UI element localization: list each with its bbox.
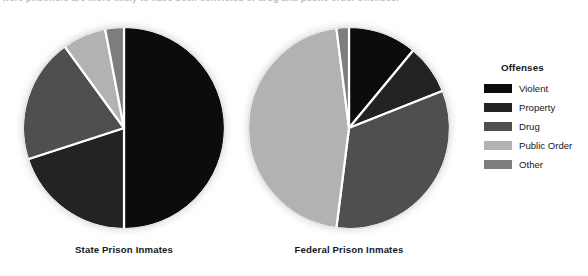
legend-swatch-public-order bbox=[484, 141, 512, 150]
legend-label-property: Property bbox=[519, 103, 555, 113]
state-prison-pie-chart: State Prison Inmates bbox=[18, 22, 230, 255]
legend-label-other: Other bbox=[519, 160, 543, 170]
legend-item-public-order: Public Order bbox=[484, 136, 584, 155]
state-pie-caption: State Prison Inmates bbox=[18, 244, 230, 255]
legend-label-violent: Violent bbox=[519, 84, 548, 94]
legend-item-violent: Violent bbox=[484, 79, 584, 98]
state-pie-svg bbox=[18, 22, 230, 234]
federal-prison-pie-chart: Federal Prison Inmates bbox=[243, 22, 455, 255]
legend-item-property: Property bbox=[484, 98, 584, 117]
legend-item-other: Other bbox=[484, 155, 584, 174]
legend-label-drug: Drug bbox=[519, 122, 540, 132]
federal-pie-svg bbox=[243, 22, 455, 234]
legend-title: Offenses bbox=[501, 62, 584, 73]
pie-slice bbox=[124, 27, 225, 229]
legend-swatch-drug bbox=[484, 122, 512, 131]
federal-pie-caption: Federal Prison Inmates bbox=[243, 244, 455, 255]
federal-pie-canvas bbox=[243, 22, 455, 234]
legend-swatch-other bbox=[484, 160, 512, 169]
state-pie-canvas bbox=[18, 22, 230, 234]
legend-swatch-violent bbox=[484, 84, 512, 93]
legend-item-drug: Drug bbox=[484, 117, 584, 136]
pie-slice bbox=[248, 28, 349, 228]
chart-legend: Offenses Violent Property Drug Public Or… bbox=[484, 62, 584, 174]
caption-text: were prisoners are more likely to have b… bbox=[2, 0, 472, 3]
legend-swatch-property bbox=[484, 103, 512, 112]
legend-label-public-order: Public Order bbox=[519, 141, 572, 151]
